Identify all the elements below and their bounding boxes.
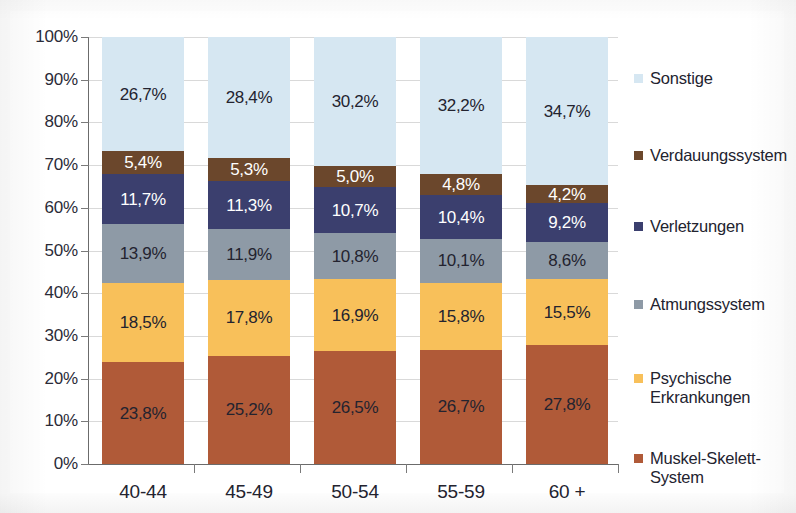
bar-segment-value-label: 9,2% [548,214,586,231]
bar-segment[interactable]: 16,9% [314,279,396,351]
bar-segment-value-label: 18,5% [120,314,167,331]
chart-page: 0%10%20%30%40%50%60%70%80%90%100% 26,7%5… [0,0,796,513]
legend-item[interactable]: Muskel-Skelett- System [634,449,761,488]
y-axis-tick [81,464,89,465]
bar-segment[interactable]: 8,6% [526,242,608,279]
legend-label: Muskel-Skelett- System [650,449,761,488]
x-axis-category-label: 60 + [549,481,586,503]
bar-group[interactable]: 26,7%5,4%11,7%13,9%18,5%23,8% [102,37,184,464]
stacked-bar[interactable]: 34,7%4,2%9,2%8,6%15,5%27,8% [526,37,608,464]
bar-segment[interactable]: 10,7% [314,187,396,233]
plot-area: 0%10%20%30%40%50%60%70%80%90%100% 26,7%5… [88,37,618,464]
stacked-bar[interactable]: 30,2%5,0%10,7%10,8%16,9%26,5% [314,37,396,464]
legend-swatch [634,74,643,83]
y-axis-tick-label: 60% [45,198,78,218]
bar-segment-value-label: 11,9% [226,246,271,263]
x-axis-tick [618,464,619,473]
bar-segment[interactable]: 10,1% [420,239,502,282]
bar-group[interactable]: 30,2%5,0%10,7%10,8%16,9%26,5% [314,37,396,464]
bar-segment[interactable]: 26,7% [102,37,184,151]
bar-segment[interactable]: 26,5% [314,351,396,464]
y-axis-tick [81,208,89,209]
x-axis-tick [406,464,407,473]
y-axis-tick [81,293,89,294]
chart-frame: 0%10%20%30%40%50%60%70%80%90%100% 26,7%5… [10,11,784,493]
bar-group[interactable]: 34,7%4,2%9,2%8,6%15,5%27,8% [526,37,608,464]
bar-segment[interactable]: 15,8% [420,283,502,350]
bar-segment[interactable]: 30,2% [314,37,396,166]
legend-item[interactable]: Sonstige [634,69,713,88]
bar-segment[interactable]: 25,2% [208,356,290,464]
chart-plot-container: 0%10%20%30%40%50%60%70%80%90%100% 26,7%5… [88,37,618,464]
x-axis-category-label: 40-44 [119,481,167,503]
bar-segment[interactable]: 10,4% [420,195,502,239]
y-axis-tick-label: 50% [45,241,78,261]
bar-segment[interactable]: 26,7% [420,350,502,464]
y-axis-tick-label: 100% [35,27,78,47]
bar-segment-value-label: 4,8% [442,176,480,193]
bar-segment-value-label: 10,7% [332,202,379,219]
x-axis-category-label: 45-49 [225,481,273,503]
bar-segment-value-label: 32,2% [438,97,485,114]
bar-segment[interactable]: 9,2% [526,203,608,242]
stacked-bar[interactable]: 26,7%5,4%11,7%13,9%18,5%23,8% [102,37,184,464]
bar-segment-value-label: 16,9% [332,307,379,324]
legend-item[interactable]: Verletzungen [634,217,744,236]
bar-segment[interactable]: 28,4% [208,37,290,158]
stacked-bar[interactable]: 32,2%4,8%10,4%10,1%15,8%26,7% [420,37,502,464]
bar-segment[interactable]: 11,7% [102,174,184,224]
bar-segment[interactable]: 5,0% [314,166,396,187]
legend-swatch [634,454,643,463]
stacked-bar[interactable]: 28,4%5,3%11,3%11,9%17,8%25,2% [208,37,290,464]
bar-segment-value-label: 26,7% [120,86,167,103]
legend-item[interactable]: Psychische Erkrankungen [634,369,750,408]
bar-segment[interactable]: 32,2% [420,37,502,174]
bar-segment-value-label: 10,1% [438,252,485,269]
y-axis-tick-label: 10% [45,411,78,431]
bar-segment[interactable]: 23,8% [102,362,184,464]
bar-segment[interactable]: 5,3% [208,158,290,181]
bar-segment[interactable]: 17,8% [208,280,290,356]
bar-segment[interactable]: 11,9% [208,229,290,280]
x-axis-tick [512,464,513,473]
bar-segment[interactable]: 10,8% [314,233,396,279]
y-axis-tick-label: 80% [45,112,78,132]
legend-swatch [634,151,643,160]
bar-segment[interactable]: 15,5% [526,279,608,345]
bar-segment-value-label: 11,7% [120,191,165,208]
y-axis-tick [81,80,89,81]
x-axis-category-label: 55-59 [437,481,485,503]
legend-label: Verletzungen [650,217,744,236]
bar-segment[interactable]: 13,9% [102,224,184,283]
bar-segment[interactable]: 4,8% [420,174,502,194]
bar-segment-value-label: 25,2% [226,401,273,418]
bar-segment-value-label: 23,8% [120,405,167,422]
y-axis-tick [81,165,89,166]
x-axis-tick [300,464,301,473]
bar-segment[interactable]: 34,7% [526,37,608,185]
bar-segment[interactable]: 18,5% [102,283,184,362]
bar-group[interactable]: 32,2%4,8%10,4%10,1%15,8%26,7% [420,37,502,464]
y-axis-tick-label: 20% [45,369,78,389]
y-axis-tick [81,251,89,252]
bar-segment[interactable]: 11,3% [208,181,290,229]
y-axis-tick-label: 90% [45,70,78,90]
legend-item[interactable]: Verdauungssystem [634,146,787,165]
bar-segment-value-label: 34,7% [544,103,591,120]
bar-segment-value-label: 30,2% [332,93,379,110]
legend-label: Atmungssystem [650,295,765,314]
legend-item[interactable]: Atmungssystem [634,295,765,314]
bar-segment-value-label: 15,5% [544,304,591,321]
bar-group[interactable]: 28,4%5,3%11,3%11,9%17,8%25,2% [208,37,290,464]
bar-segment[interactable]: 4,2% [526,185,608,203]
bar-segment-value-label: 26,5% [332,399,379,416]
y-axis-tick [81,379,89,380]
bar-segment-value-label: 26,7% [438,398,485,415]
y-axis-tick-label: 70% [45,155,78,175]
bar-segment-value-label: 28,4% [226,89,273,106]
bar-segment[interactable]: 27,8% [526,345,608,464]
bar-segment[interactable]: 5,4% [102,151,184,174]
bar-segment-value-label: 5,4% [124,154,162,171]
y-axis-tick-label: 0% [54,454,78,474]
y-axis-tick [81,421,89,422]
